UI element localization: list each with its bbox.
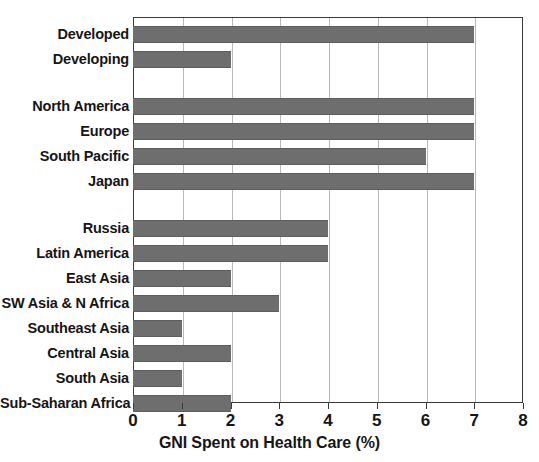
bar [133, 148, 426, 165]
category-label: Europe [0, 123, 129, 140]
x-tick-mark [279, 403, 280, 409]
bar [133, 123, 474, 140]
x-tick-mark [474, 403, 475, 409]
category-label: Developing [0, 51, 129, 68]
category-label: Russia [0, 220, 129, 237]
x-axis-ticks: 012345678 [133, 403, 523, 429]
bar [133, 245, 328, 262]
category-labels: DevelopedDevelopingNorth AmericaEuropeSo… [0, 17, 129, 403]
x-tick-mark [377, 403, 378, 409]
x-tick-mark [523, 403, 524, 409]
x-tick-label: 8 [508, 411, 538, 431]
x-tick-mark [133, 403, 134, 409]
bar [133, 51, 231, 68]
x-tick-mark [328, 403, 329, 409]
x-tick-label: 1 [167, 411, 197, 431]
bar [133, 320, 182, 337]
category-label: Sub-Saharan Africa [0, 395, 129, 412]
bar [133, 345, 231, 362]
x-tick-mark [426, 403, 427, 409]
x-tick-label: 4 [313, 411, 343, 431]
bar [133, 173, 474, 190]
x-tick-label: 6 [411, 411, 441, 431]
category-label: East Asia [0, 270, 129, 287]
x-tick-label: 7 [459, 411, 489, 431]
category-label: Central Asia [0, 345, 129, 362]
x-tick-mark [231, 403, 232, 409]
category-label: Southeast Asia [0, 320, 129, 337]
bar [133, 220, 328, 237]
bar [133, 370, 182, 387]
x-tick-label: 2 [216, 411, 246, 431]
category-label: SW Asia & N Africa [0, 295, 129, 312]
bar [133, 26, 474, 43]
bar-chart: DevelopedDevelopingNorth AmericaEuropeSo… [0, 0, 539, 462]
category-label: South Pacific [0, 148, 129, 165]
x-tick-mark [182, 403, 183, 409]
category-label: North America [0, 98, 129, 115]
category-label: Japan [0, 173, 129, 190]
x-axis-title: GNI Spent on Health Care (%) [0, 434, 539, 452]
bars-layer [133, 17, 523, 403]
bar [133, 295, 279, 312]
bar [133, 270, 231, 287]
x-tick-label: 5 [362, 411, 392, 431]
bar [133, 98, 474, 115]
x-tick-label: 0 [118, 411, 148, 431]
x-tick-label: 3 [264, 411, 294, 431]
category-label: Latin America [0, 245, 129, 262]
category-label: Developed [0, 26, 129, 43]
category-label: South Asia [0, 370, 129, 387]
